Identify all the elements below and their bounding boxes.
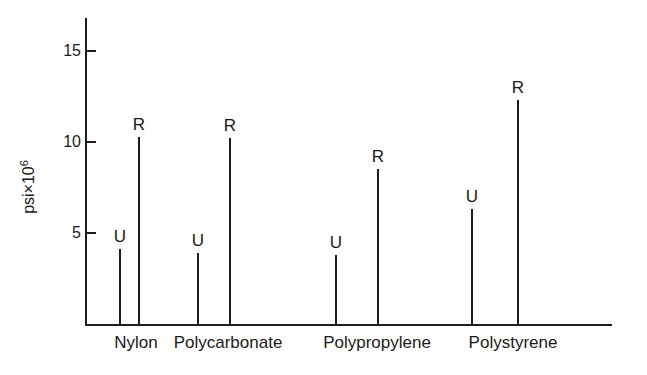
x-axis-category-label: Polystyrene [469, 333, 558, 353]
data-stem [138, 137, 140, 324]
y-axis-title-exponent: 6 [18, 160, 30, 166]
data-stem [517, 100, 519, 324]
y-axis-tick-label: 5 [51, 225, 81, 241]
y-axis-tick-label: 10 [51, 134, 81, 150]
x-axis-category-label: Polycarbonate [174, 333, 283, 353]
data-stem [119, 249, 121, 324]
data-point-label: U [187, 232, 209, 249]
y-axis-tick-labels: 51015 [45, 0, 81, 340]
data-point-label: U [109, 228, 131, 245]
y-axis-tick [87, 232, 96, 234]
data-stem [335, 255, 337, 324]
data-point-label: R [219, 117, 241, 134]
data-stem [197, 253, 199, 324]
data-point-label: R [128, 116, 150, 133]
data-stem [229, 138, 231, 324]
x-axis-line [85, 324, 612, 326]
x-axis-category-label: Nylon [114, 333, 157, 353]
y-axis-tick [87, 141, 96, 143]
y-axis-title: psi×106 [20, 132, 38, 242]
y-axis-line [85, 18, 87, 326]
data-point-label: R [507, 79, 529, 96]
y-axis-tick-label: 15 [51, 43, 81, 59]
chart-figure: 51015 psi×106 URURURUR NylonPolycarbonat… [0, 0, 647, 375]
data-point-label: U [325, 234, 347, 251]
y-axis-tick [87, 50, 96, 52]
data-point-label: R [367, 148, 389, 165]
y-axis-title-base: psi×10 [20, 166, 37, 214]
data-stem [471, 209, 473, 324]
data-point-label: U [461, 188, 483, 205]
data-stem [377, 169, 379, 324]
x-axis-category-label: Polypropylene [323, 333, 431, 353]
